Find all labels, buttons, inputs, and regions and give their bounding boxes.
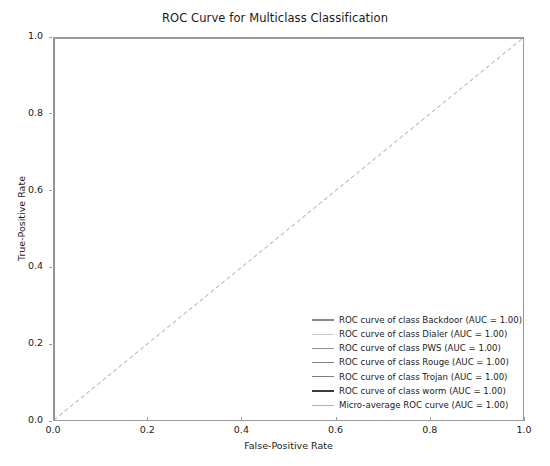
legend-color-swatch xyxy=(312,362,334,363)
y-axis-label: True-Positive Rate xyxy=(16,119,27,319)
legend-color-swatch xyxy=(312,405,334,406)
x-tick-mark xyxy=(53,417,54,421)
x-tick-label: 0.4 xyxy=(211,424,271,435)
legend-item: ROC curve of class Dialer (AUC = 1.00) xyxy=(312,327,530,341)
y-tick-label: 0.6 xyxy=(28,184,43,195)
x-tick-label: 1.0 xyxy=(494,424,550,435)
legend-item: ROC curve of class PWS (AUC = 1.00) xyxy=(312,341,530,355)
y-tick-label: 0.2 xyxy=(28,337,43,348)
legend-color-swatch xyxy=(312,376,334,377)
y-tick: 0.2 xyxy=(0,334,48,354)
y-tick-mark xyxy=(49,267,53,268)
y-tick: 1.0 xyxy=(0,27,48,47)
legend-item: ROC curve of class worm (AUC = 1.00) xyxy=(312,384,530,398)
legend-item-label: Micro-average ROC curve (AUC = 1.00) xyxy=(339,401,530,410)
y-tick-label: 0.0 xyxy=(28,414,43,425)
y-tick-label: 1.0 xyxy=(28,30,43,41)
y-tick-mark xyxy=(49,344,53,345)
x-tick-mark xyxy=(524,417,525,421)
y-tick-mark xyxy=(49,113,53,114)
x-tick-label: 0.2 xyxy=(117,424,177,435)
legend-item-label: ROC curve of class Dialer (AUC = 1.00) xyxy=(339,330,530,339)
x-tick-mark xyxy=(336,417,337,421)
legend-item-label: ROC curve of class worm (AUC = 1.00) xyxy=(339,387,530,396)
legend-color-swatch xyxy=(312,334,334,335)
y-tick-mark xyxy=(49,37,53,38)
legend-item: ROC curve of class Trojan (AUC = 1.00) xyxy=(312,370,530,384)
y-tick-mark xyxy=(49,190,53,191)
y-tick: 0.0 xyxy=(0,411,48,431)
page-title: ROC Curve for Multiclass Classification xyxy=(0,11,550,25)
x-tick-mark xyxy=(241,417,242,421)
x-tick-mark xyxy=(147,417,148,421)
x-tick-mark xyxy=(430,417,431,421)
legend-color-swatch xyxy=(312,390,334,391)
legend-item-label: ROC curve of class Trojan (AUC = 1.00) xyxy=(339,373,530,382)
x-tick-label: 0.8 xyxy=(400,424,460,435)
legend-item-label: ROC curve of class Backdoor (AUC = 1.00) xyxy=(339,316,530,325)
legend-item: ROC curve of class Backdoor (AUC = 1.00) xyxy=(312,313,530,327)
y-tick-label: 0.8 xyxy=(28,107,43,118)
x-axis-label: False-Positive Rate xyxy=(53,440,524,451)
legend-color-swatch xyxy=(312,319,334,320)
roc-curve-figure: ROC Curve for Multiclass Classification … xyxy=(0,0,550,466)
y-tick-label: 0.4 xyxy=(28,260,43,271)
x-tick-label: 0.6 xyxy=(306,424,366,435)
legend-item-label: ROC curve of class Rouge (AUC = 1.00) xyxy=(339,358,530,367)
legend-color-swatch xyxy=(312,348,334,349)
legend-item: Micro-average ROC curve (AUC = 1.00) xyxy=(312,398,530,412)
y-tick-mark xyxy=(49,421,53,422)
legend: ROC curve of class Backdoor (AUC = 1.00)… xyxy=(312,313,530,412)
legend-item-label: ROC curve of class PWS (AUC = 1.00) xyxy=(339,344,530,353)
legend-item: ROC curve of class Rouge (AUC = 1.00) xyxy=(312,356,530,370)
